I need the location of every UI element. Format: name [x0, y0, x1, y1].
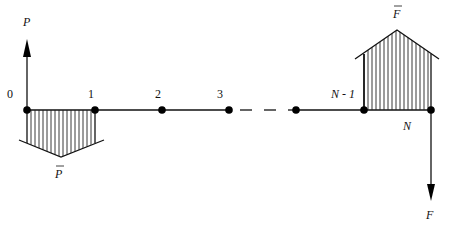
force-p-arrow [23, 39, 31, 110]
arrowhead-up-icon [23, 39, 31, 57]
force-f-label: F [425, 208, 434, 222]
node-n-label: N [402, 119, 412, 133]
force-f-arrow [427, 110, 435, 201]
force-p-label: P [22, 15, 31, 29]
node-2-label: 2 [155, 87, 161, 101]
node-3-dot [225, 106, 233, 114]
right-hatching [368, 28, 428, 110]
node-2-dot [158, 106, 166, 114]
right-load-diagram [355, 28, 439, 110]
node-n-dot [427, 106, 435, 114]
node-n-1-dot [360, 106, 368, 114]
bar-chain-diagram: 0 1 2 3 N - 1 N P P F F [0, 0, 449, 230]
node-n-2-dot [292, 106, 300, 114]
node-0-label: 0 [7, 87, 13, 101]
left-hatching [31, 110, 91, 160]
force-f-bar-label: F [392, 6, 402, 21]
svg-text:F: F [392, 7, 401, 21]
node-n-1-label: N - 1 [330, 87, 355, 101]
svg-text:P: P [54, 167, 63, 181]
arrowhead-down-icon [427, 184, 435, 201]
left-load-diagram [19, 110, 104, 160]
node-3-label: 3 [217, 87, 223, 101]
node-1-dot [91, 106, 99, 114]
force-p-bar-label: P [54, 166, 64, 181]
node-1-label: 1 [88, 87, 94, 101]
node-0-dot [23, 106, 31, 114]
